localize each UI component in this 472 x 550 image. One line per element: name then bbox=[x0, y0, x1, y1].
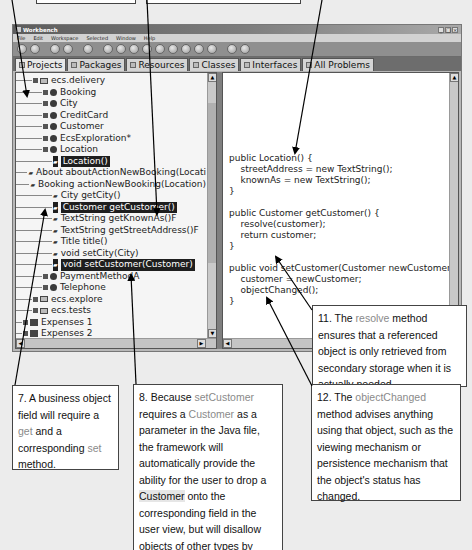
tree-item[interactable]: City bbox=[16, 98, 206, 110]
tree-item[interactable]: Expenses 1 bbox=[16, 317, 206, 329]
method-icon: ▰ bbox=[53, 225, 58, 237]
tree-item[interactable]: ▰Booking actionNewBooking(Location) bbox=[16, 179, 206, 191]
tree-item-label: Expenses 1 bbox=[41, 317, 92, 329]
source-code[interactable]: public Location() { streetAddress = new … bbox=[229, 153, 459, 307]
close-button[interactable]: × bbox=[452, 27, 458, 33]
menu-help[interactable]: Help bbox=[144, 35, 155, 41]
expand-toggle-icon[interactable] bbox=[43, 113, 48, 118]
expand-toggle-icon[interactable] bbox=[43, 274, 48, 279]
expand-toggle-icon[interactable] bbox=[43, 285, 48, 290]
open-class-icon[interactable] bbox=[142, 44, 152, 54]
minimize-button[interactable]: _ bbox=[438, 27, 444, 33]
team-icon[interactable] bbox=[227, 44, 237, 54]
open-method-icon[interactable] bbox=[168, 44, 178, 54]
sync-icon[interactable] bbox=[240, 44, 250, 54]
tool-icon[interactable] bbox=[83, 44, 93, 54]
menu-window[interactable]: Window bbox=[116, 35, 136, 41]
resources-icon bbox=[130, 62, 136, 68]
tree-horizontal-scrollbar[interactable]: ◀ ▶ bbox=[16, 338, 216, 348]
scroll-right-icon[interactable]: ▶ bbox=[197, 339, 206, 348]
tree-item[interactable]: ▰TextString getKnownAs()F bbox=[16, 213, 206, 225]
expand-toggle-icon[interactable] bbox=[33, 297, 38, 302]
tree-item[interactable]: ▰TextString getStreetAddress()F bbox=[16, 225, 206, 237]
tab-classes[interactable]: Classes bbox=[189, 58, 239, 71]
tree-item[interactable]: Telephone bbox=[16, 282, 206, 294]
tree-item[interactable]: EcsExploration* bbox=[16, 133, 206, 145]
tree-item[interactable]: Booking bbox=[16, 87, 206, 99]
expand-toggle-icon[interactable] bbox=[23, 320, 28, 325]
tab-all-problems[interactable]: All Problems bbox=[302, 58, 374, 71]
tree-item[interactable]: Customer bbox=[16, 121, 206, 133]
forward-icon[interactable] bbox=[30, 44, 40, 54]
projects-icon bbox=[19, 62, 25, 68]
open-problem-icon[interactable] bbox=[194, 44, 204, 54]
scroll-left-icon[interactable]: ◀ bbox=[16, 339, 25, 348]
debug-icon[interactable] bbox=[50, 44, 60, 54]
code-line: } bbox=[229, 241, 459, 252]
package-icon bbox=[40, 78, 48, 84]
open-project-icon[interactable] bbox=[103, 44, 113, 54]
tree-item[interactable]: ecs.delivery bbox=[16, 75, 206, 87]
callout-7: 7. A business object field will require … bbox=[12, 385, 119, 470]
scroll-left-icon[interactable]: ◀ bbox=[223, 339, 232, 348]
app-icon bbox=[16, 27, 21, 32]
tree-item[interactable]: ecs.tests bbox=[16, 305, 206, 317]
tree-item[interactable]: ▰Location() bbox=[16, 156, 206, 168]
editor-vertical-scrollbar[interactable]: ▲ bbox=[449, 73, 458, 338]
expand-toggle-icon[interactable] bbox=[33, 78, 38, 83]
scroll-up-icon[interactable]: ▲ bbox=[450, 73, 459, 82]
tree-item-label: Location bbox=[60, 144, 98, 156]
tree-item[interactable]: ▰About aboutActionNewBooking(Locati bbox=[16, 167, 206, 179]
settings-icon[interactable] bbox=[63, 44, 73, 54]
tree-item[interactable]: ▰Customer getCustomer() bbox=[16, 202, 206, 214]
tree-item-label: About aboutActionNewBooking(Locati bbox=[36, 167, 206, 179]
menu-selected[interactable]: Selected bbox=[86, 35, 108, 41]
scroll-thumb[interactable] bbox=[208, 103, 216, 263]
tree-item-label: void setCustomer(Customer) bbox=[61, 259, 195, 271]
open-resource-icon[interactable] bbox=[129, 44, 139, 54]
scroll-up-icon[interactable]: ▲ bbox=[208, 73, 217, 82]
tree-item-label: EcsExploration* bbox=[60, 133, 131, 145]
expand-toggle-icon[interactable] bbox=[43, 124, 48, 129]
code-line bbox=[229, 197, 459, 208]
tree-item-label: Location() bbox=[61, 156, 110, 168]
tree-item-label: ecs.delivery bbox=[51, 75, 105, 87]
tree-item[interactable]: Location bbox=[16, 144, 206, 156]
menu-edit[interactable]: Edit bbox=[33, 35, 43, 41]
menu-file[interactable]: File bbox=[17, 35, 25, 41]
open-package-icon[interactable] bbox=[116, 44, 126, 54]
tab-projects[interactable]: Projects bbox=[15, 58, 66, 71]
perspective-tabs: Projects Packages Resources Classes Inte… bbox=[13, 57, 461, 71]
class-icon bbox=[50, 112, 57, 119]
tree-item-label: Customer bbox=[60, 121, 104, 133]
back-icon[interactable] bbox=[17, 44, 27, 54]
expand-toggle-icon[interactable] bbox=[43, 147, 48, 152]
tree-item[interactable]: ▰void setCustomer(Customer) bbox=[16, 259, 206, 271]
tab-resources[interactable]: Resources bbox=[126, 58, 188, 71]
scroll-down-icon[interactable]: ▼ bbox=[208, 329, 217, 338]
code-line: public void setCustomer(Customer newCust… bbox=[229, 263, 459, 274]
expand-toggle-icon[interactable] bbox=[43, 90, 48, 95]
tree-item[interactable]: CreditCard bbox=[16, 110, 206, 122]
tree-item[interactable]: PaymentMethodA bbox=[16, 271, 206, 283]
tab-interfaces[interactable]: Interfaces bbox=[240, 58, 301, 71]
expand-toggle-icon[interactable] bbox=[43, 136, 48, 141]
open-interface-icon[interactable] bbox=[155, 44, 165, 54]
expand-toggle-icon[interactable] bbox=[23, 331, 28, 336]
tree-vertical-scrollbar[interactable]: ▲ ▼ bbox=[207, 73, 216, 338]
tree-item[interactable]: ecs.explore bbox=[16, 294, 206, 306]
menu-workspace[interactable]: Workspace bbox=[51, 35, 78, 41]
expand-toggle-icon[interactable] bbox=[43, 101, 48, 106]
open-search-icon[interactable] bbox=[207, 44, 217, 54]
open-field-icon[interactable] bbox=[181, 44, 191, 54]
tab-packages[interactable]: Packages bbox=[67, 58, 125, 71]
tree-item[interactable]: ▰City getCity() bbox=[16, 190, 206, 202]
expand-toggle-icon[interactable] bbox=[33, 308, 38, 313]
tree-item[interactable]: ▰Title title() bbox=[16, 236, 206, 248]
project-tree-pane: ecs.deliveryBookingCityCreditCardCustome… bbox=[15, 72, 217, 349]
tree-item[interactable]: ▰void setCity(City) bbox=[16, 248, 206, 260]
tree-connector bbox=[16, 310, 32, 311]
method-icon: ▰ bbox=[53, 259, 58, 271]
code-line: public Customer getCustomer() { bbox=[229, 208, 459, 219]
maximize-button[interactable]: □ bbox=[445, 27, 451, 33]
